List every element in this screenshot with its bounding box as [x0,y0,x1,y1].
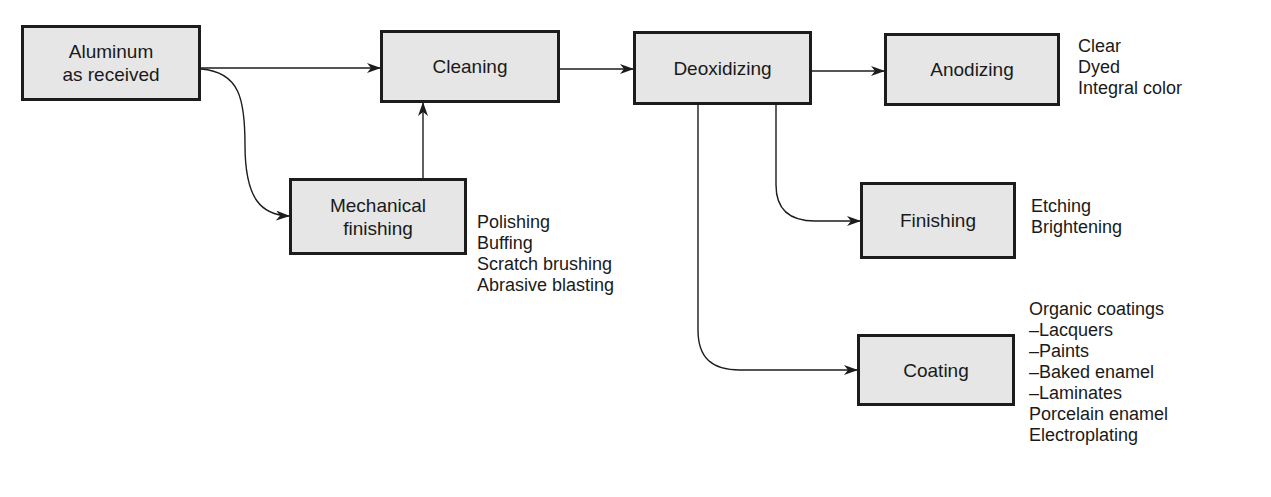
node-coating: Coating [857,334,1015,406]
node-label-line: finishing [330,217,426,240]
edge-deoxidizing-to-finishing [776,105,860,221]
node-label: Cleaning [433,55,508,78]
node-cleaning: Cleaning [380,30,560,103]
node-label-line: Aluminum [62,40,159,63]
node-label: Anodizing [930,58,1013,81]
node-finishing: Finishing [860,182,1016,259]
node-label: Finishing [900,209,976,232]
option-item: Polishing [477,212,614,233]
finishing-options-list: Etching Brightening [1031,196,1122,238]
option-item: Dyed [1078,57,1182,78]
option-item: Abrasive blasting [477,275,614,296]
option-item: –Laminates [1029,383,1168,404]
node-anodizing: Anodizing [884,33,1060,106]
option-item: –Lacquers [1029,320,1168,341]
option-item: Clear [1078,36,1182,57]
option-item: Organic coatings [1029,299,1168,320]
node-deoxidizing: Deoxidizing [633,31,812,105]
option-item: Electroplating [1029,425,1168,446]
option-item: Brightening [1031,217,1122,238]
option-item: Buffing [477,233,614,254]
node-aluminum-as-received: Aluminum as received [21,25,201,101]
option-item: –Baked enamel [1029,362,1168,383]
node-label-line: Mechanical [330,194,426,217]
option-item: Scratch brushing [477,254,614,275]
node-label: Coating [903,359,969,382]
edge-aluminum-to-mechanical [201,69,289,216]
option-item: –Paints [1029,341,1168,362]
option-item: Etching [1031,196,1122,217]
node-label-line: as received [62,63,159,86]
coating-options-list: Organic coatings –Lacquers –Paints –Bake… [1029,299,1168,446]
option-item: Integral color [1078,78,1182,99]
mechanical-finishing-options-list: Polishing Buffing Scratch brushing Abras… [477,212,614,296]
edge-deoxidizing-to-coating [698,105,857,370]
node-mechanical-finishing: Mechanical finishing [289,178,467,255]
node-label: Deoxidizing [673,57,771,80]
option-item: Porcelain enamel [1029,404,1168,425]
anodizing-options-list: Clear Dyed Integral color [1078,36,1182,99]
